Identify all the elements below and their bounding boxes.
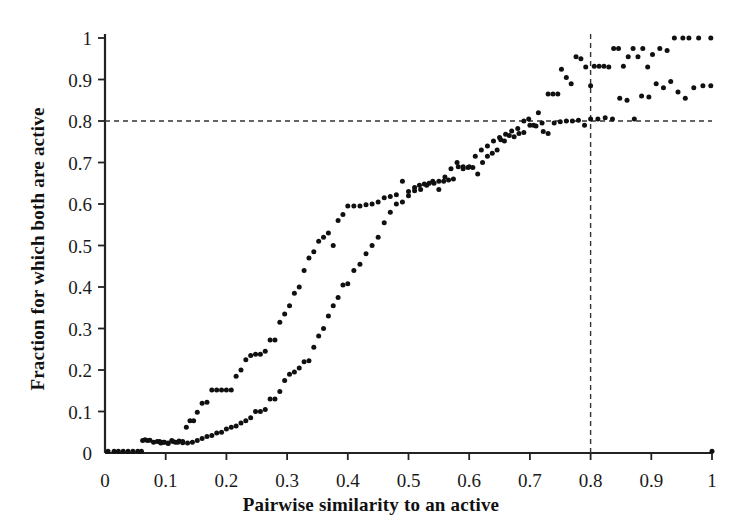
- data-point: [650, 52, 655, 57]
- data-point: [311, 249, 316, 254]
- data-point: [394, 202, 399, 207]
- data-point: [691, 85, 696, 90]
- data-point: [597, 64, 602, 69]
- x-axis-tick-label: 0.1: [154, 471, 178, 490]
- data-point: [617, 96, 622, 101]
- data-point: [376, 235, 381, 240]
- data-point: [191, 418, 196, 423]
- x-axis-tick-label: 0.7: [518, 471, 542, 490]
- data-point: [491, 138, 496, 143]
- data-point: [243, 418, 248, 423]
- data-point: [552, 121, 557, 126]
- data-point: [442, 175, 447, 180]
- x-axis-tick-label: 0.8: [579, 471, 603, 490]
- data-point: [121, 449, 126, 454]
- data-point: [527, 123, 532, 128]
- data-point: [268, 397, 273, 402]
- data-point: [540, 121, 545, 126]
- data-point: [321, 326, 326, 331]
- data-point: [248, 353, 253, 358]
- data-point: [302, 359, 307, 364]
- data-point: [625, 98, 630, 103]
- data-point: [676, 89, 681, 94]
- data-point: [200, 436, 205, 441]
- data-point: [686, 36, 691, 41]
- data-point: [292, 370, 297, 375]
- data-point: [708, 83, 713, 88]
- data-point: [248, 415, 253, 420]
- y-axis-title: Fraction for which both are active: [27, 39, 49, 459]
- data-point: [696, 36, 701, 41]
- data-point: [606, 65, 611, 70]
- data-point: [234, 424, 239, 429]
- data-point: [297, 365, 302, 370]
- x-axis-tick-label: 1: [707, 471, 717, 490]
- data-point: [455, 160, 460, 165]
- plot-canvas: [0, 0, 742, 529]
- data-point: [272, 397, 277, 402]
- data-series-group: [106, 36, 715, 454]
- data-point: [336, 295, 341, 300]
- x-axis-tick-label: 0.9: [639, 471, 663, 490]
- data-point: [287, 372, 292, 377]
- data-point: [509, 128, 514, 133]
- data-point: [229, 425, 234, 430]
- data-point: [558, 119, 563, 124]
- data-point: [475, 172, 480, 177]
- data-point: [467, 164, 472, 169]
- x-axis-tick-label: 0.5: [397, 471, 421, 490]
- data-point: [635, 54, 640, 59]
- data-point: [436, 187, 441, 192]
- data-point: [631, 46, 636, 51]
- data-point: [219, 430, 224, 435]
- data-point: [316, 333, 321, 338]
- data-point: [238, 368, 243, 373]
- x-axis-title: Pairwise similarity to an active: [0, 494, 742, 516]
- data-point: [680, 36, 685, 41]
- data-point: [331, 303, 336, 308]
- data-point: [611, 46, 616, 51]
- data-point: [282, 311, 287, 316]
- data-point: [461, 164, 466, 169]
- x-axis-tick-label: 0.2: [215, 471, 239, 490]
- data-point: [495, 148, 500, 153]
- data-point: [708, 36, 713, 41]
- data-point: [277, 389, 282, 394]
- data-point: [268, 338, 273, 343]
- data-point: [336, 218, 341, 223]
- data-point: [430, 179, 435, 184]
- data-point: [574, 54, 579, 59]
- data-point: [479, 148, 484, 153]
- data-point: [277, 320, 282, 325]
- data-point: [485, 154, 490, 159]
- data-point: [546, 131, 551, 136]
- data-point: [570, 119, 575, 124]
- data-point: [116, 449, 121, 454]
- data-point: [564, 75, 569, 80]
- data-point: [209, 387, 214, 392]
- data-point: [258, 409, 263, 414]
- data-point: [700, 83, 705, 88]
- data-point: [345, 281, 350, 286]
- data-point: [418, 187, 423, 192]
- data-point: [364, 202, 369, 207]
- series-baseline-zero-point: [710, 449, 715, 454]
- data-point: [616, 46, 621, 51]
- data-point: [400, 199, 405, 204]
- data-point: [485, 143, 490, 148]
- data-point: [229, 387, 234, 392]
- data-point: [521, 119, 526, 124]
- data-point: [297, 285, 302, 290]
- data-point: [480, 160, 485, 165]
- data-point: [126, 449, 131, 454]
- data-point: [503, 132, 508, 137]
- data-point: [388, 194, 393, 199]
- data-point: [394, 192, 399, 197]
- data-point: [311, 345, 316, 350]
- data-point: [541, 129, 546, 134]
- data-point: [497, 135, 502, 140]
- data-point: [224, 426, 229, 431]
- data-point: [253, 409, 258, 414]
- data-point: [106, 449, 111, 454]
- data-point: [175, 440, 180, 445]
